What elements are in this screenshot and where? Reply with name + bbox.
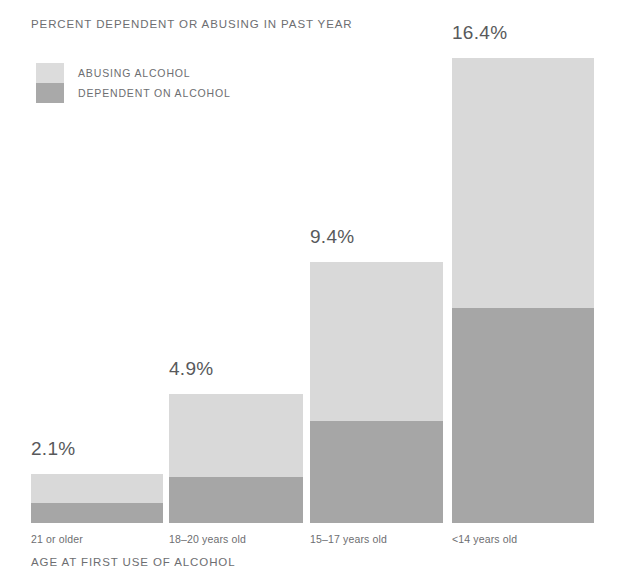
bar-value-label: 9.4%	[310, 226, 355, 248]
x-axis-title: AGE AT FIRST USE OF ALCOHOL	[31, 556, 236, 568]
bar-segment-dependent	[310, 421, 443, 523]
bar-stack	[31, 474, 163, 523]
bar-segment-abusing	[169, 394, 303, 477]
bar-category-label: <14 years old	[452, 533, 517, 545]
bar-value-label: 2.1%	[31, 438, 76, 460]
bar-group-under-14-years-old: 16.4% <14 years old	[452, 58, 594, 523]
bar-segment-abusing	[31, 474, 163, 503]
bar-group-15-17-years-old: 9.4% 15–17 years old	[310, 262, 443, 523]
bar-category-label: 18–20 years old	[169, 533, 246, 545]
bar-category-label: 21 or older	[31, 533, 83, 545]
bar-segment-abusing	[310, 262, 443, 421]
bar-segment-abusing	[452, 58, 594, 308]
bar-segment-dependent	[452, 308, 594, 523]
bar-category-label: 15–17 years old	[310, 533, 387, 545]
bar-group-18-20-years-old: 4.9% 18–20 years old	[169, 394, 303, 523]
stacked-bar-chart: PERCENT DEPENDENT OR ABUSING IN PAST YEA…	[0, 0, 625, 580]
bar-segment-dependent	[169, 477, 303, 523]
bar-value-label: 4.9%	[169, 358, 214, 380]
bar-segment-dependent	[31, 503, 163, 523]
bar-group-21-or-older: 2.1% 21 or older	[31, 474, 163, 523]
bar-stack	[169, 394, 303, 523]
bar-stack	[310, 262, 443, 523]
plot-area: 2.1% 21 or older 4.9% 18–20 years old 9.…	[0, 0, 625, 580]
bar-value-label: 16.4%	[452, 22, 507, 44]
bar-stack	[452, 58, 594, 523]
